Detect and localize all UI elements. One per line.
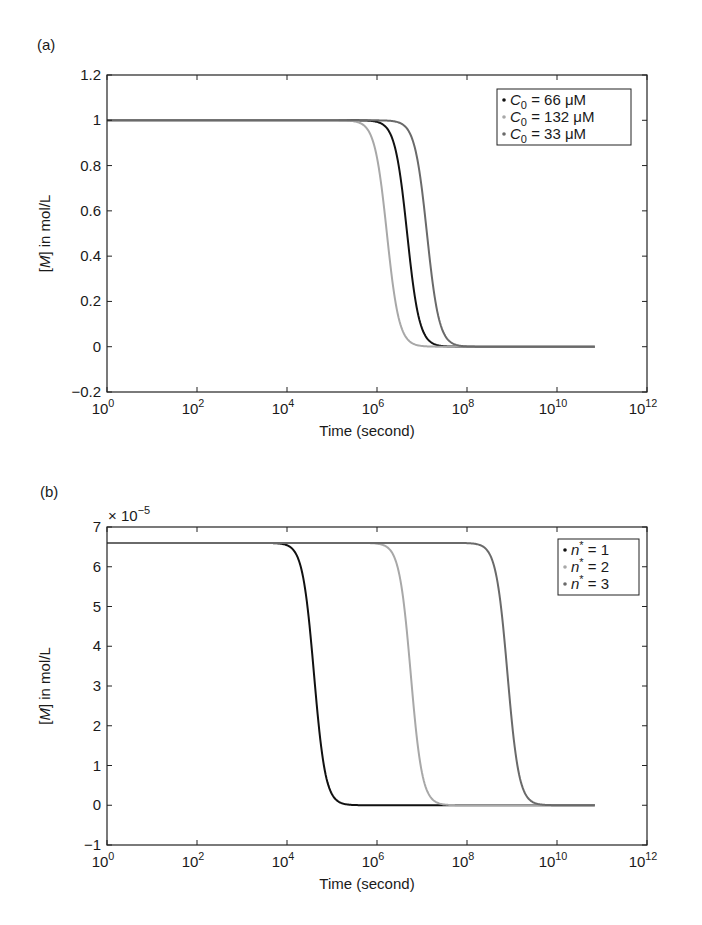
y-tick-label: 5: [93, 598, 101, 615]
y-tick-label: 7: [93, 518, 101, 535]
y-tick-label: 0.6: [80, 202, 101, 219]
y-tick-label: 1.2: [80, 66, 101, 83]
series-line-1: [107, 543, 595, 805]
x-tick-label: 108: [452, 397, 475, 417]
y-tick-label: −1: [84, 836, 101, 853]
y-axis-label: [M] in mol/L: [36, 647, 53, 725]
y-multiplier-label: × 10−5: [108, 504, 150, 524]
x-tick-label: 1010: [539, 397, 568, 417]
y-axis-label: [M] in mol/L: [36, 195, 53, 273]
y-tick-label: 2: [93, 717, 101, 734]
y-tick-label: 1: [93, 757, 101, 774]
y-tick-label: 3: [93, 677, 101, 694]
legend-marker: [502, 115, 506, 119]
y-tick-label: −0.2: [71, 383, 101, 400]
x-axis-label: Time (second): [319, 875, 414, 892]
x-tick-label: 1012: [629, 397, 658, 417]
x-axis-label: Time (second): [319, 422, 414, 439]
x-tick-label: 102: [182, 397, 205, 417]
series-line-2: [107, 120, 595, 346]
x-tick-label: 100: [92, 397, 115, 417]
legend-entry-3: n* = 3: [571, 573, 609, 592]
y-tick-label: 0.2: [80, 292, 101, 309]
series-line-2: [107, 543, 595, 805]
legend-entry-1: n* = 1: [571, 539, 609, 558]
x-tick-label: 102: [182, 850, 205, 870]
y-tick-label: 0: [93, 338, 101, 355]
x-tick-label: 1012: [629, 850, 658, 870]
legend-marker: [502, 132, 506, 136]
x-tick-label: 104: [272, 397, 295, 417]
x-tick-label: 108: [452, 850, 475, 870]
legend: C0 = 66 μMC0 = 132 μMC0 = 33 μM: [497, 89, 631, 145]
legend-marker: [502, 98, 506, 102]
chart-panel-b: 10010210410610810101012−101234567× 10−5T…: [36, 504, 657, 892]
legend: n* = 1n* = 2n* = 3: [558, 539, 639, 595]
figure-canvas: 10010210410610810101012−0.200.20.40.60.8…: [0, 0, 702, 925]
x-tick-label: 104: [272, 850, 295, 870]
series-line-1: [107, 120, 595, 346]
y-tick-label: 0.4: [80, 247, 101, 264]
chart-panel-a: 10010210410610810101012−0.200.20.40.60.8…: [36, 66, 657, 439]
legend-entry-2: n* = 2: [571, 556, 609, 575]
y-tick-label: 6: [93, 558, 101, 575]
series-line-3: [107, 120, 595, 346]
series-line-3: [107, 543, 595, 805]
x-tick-label: 1010: [539, 850, 568, 870]
x-tick-label: 100: [92, 850, 115, 870]
y-tick-label: 4: [93, 637, 101, 654]
x-tick-label: 106: [362, 397, 385, 417]
y-tick-label: 0: [93, 796, 101, 813]
legend-marker: [563, 582, 567, 586]
x-tick-label: 106: [362, 850, 385, 870]
legend-marker: [563, 565, 567, 569]
y-tick-label: 1: [93, 111, 101, 128]
y-tick-label: 0.8: [80, 157, 101, 174]
legend-marker: [563, 548, 567, 552]
